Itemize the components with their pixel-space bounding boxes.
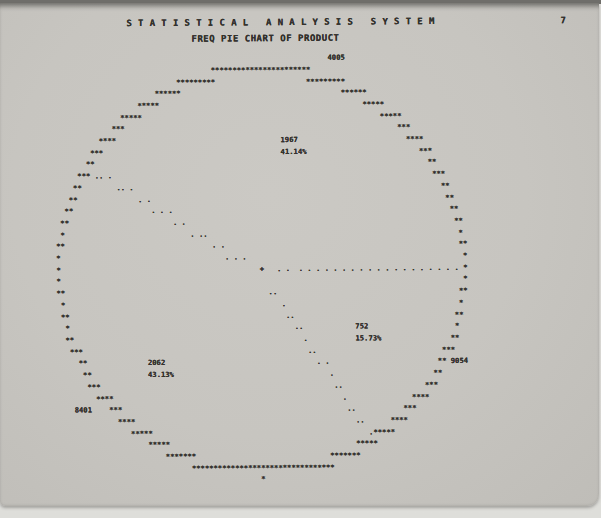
printout-paper: S T A T I S T I C A L A N A L Y S I S S … (0, 3, 599, 506)
print-layer: S T A T I S T I C A L A N A L Y S I S S … (0, 1, 601, 508)
page-number: 7 (560, 15, 565, 25)
ascii-pie-chart: 4005 *********************** (0, 15, 521, 498)
